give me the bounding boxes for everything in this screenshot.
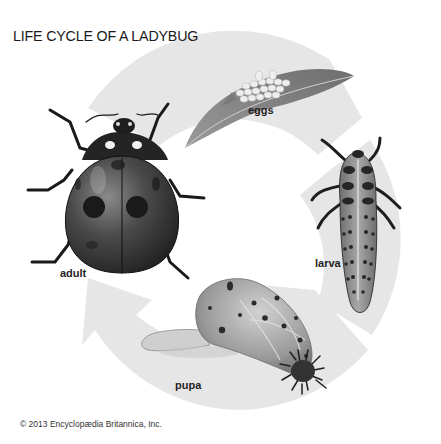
copyright-notice: © 2013 Encyclopædia Britannica, Inc. — [20, 419, 162, 429]
diagram-title: LIFE CYCLE OF A LADYBUG — [13, 27, 198, 45]
stage-label-pupa: pupa — [175, 379, 201, 391]
life-cycle-illustration — [0, 0, 441, 444]
stage-label-larva: larva — [315, 257, 341, 269]
stage-label-eggs: eggs — [248, 104, 274, 116]
stage-label-adult: adult — [60, 267, 86, 279]
